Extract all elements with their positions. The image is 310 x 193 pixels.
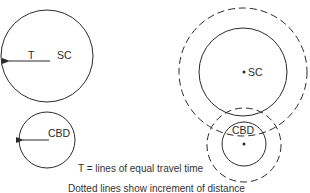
left-cbd-zone: CBD [19, 112, 75, 168]
left-sc-label: SC [57, 49, 72, 61]
left-sc-circle [1, 10, 93, 102]
left-cbd-label: CBD [48, 127, 71, 139]
right-sc-center-dot [243, 71, 246, 74]
right-diagram: SC CBD [179, 8, 307, 182]
left-sc-travel-time-label: T [28, 49, 35, 61]
left-diagram: T SC CBD [1, 10, 93, 168]
right-cbd-center-dot [243, 143, 246, 146]
right-sc-label: SC [248, 66, 263, 78]
diagram-canvas: T SC CBD SC CBD T = lines of equal trave… [0, 0, 310, 193]
caption-travel-time: T = lines of equal travel time [78, 163, 204, 174]
right-sc-zone: SC [179, 8, 307, 136]
right-cbd-zone: CBD [207, 108, 281, 182]
caption-dotted-lines: Dotted lines show increment of distance [68, 183, 245, 193]
right-cbd-label: CBD [232, 124, 255, 136]
left-sc-zone: T SC [1, 10, 93, 102]
captions: T = lines of equal travel time Dotted li… [68, 163, 245, 193]
